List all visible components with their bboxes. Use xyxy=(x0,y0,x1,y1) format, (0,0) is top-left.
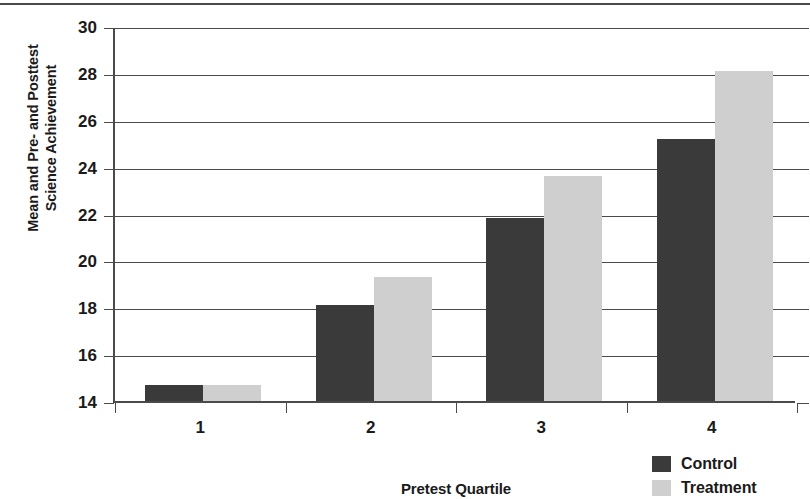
y-tick-mark-right-20 xyxy=(797,262,809,263)
bar-control-q2 xyxy=(316,305,374,401)
y-tick-mark-14 xyxy=(104,403,114,404)
y-tick-mark-right-18 xyxy=(797,309,809,310)
y-tick-label-24: 24 xyxy=(49,160,97,177)
y-tick-mark-20 xyxy=(104,262,114,263)
y-tick-mark-28 xyxy=(104,75,114,76)
bar-treatment-q3 xyxy=(544,176,602,401)
y-tick-mark-right-30 xyxy=(797,28,809,29)
x-tick-label-3: 3 xyxy=(501,418,581,438)
y-tick-label-28: 28 xyxy=(49,66,97,83)
legend-label-control: Control xyxy=(681,455,737,473)
y-tick-mark-30 xyxy=(104,28,114,29)
x-tick-mark-2 xyxy=(286,403,287,413)
x-tick-mark-4 xyxy=(627,403,628,413)
y-tick-label-16: 16 xyxy=(49,347,97,364)
figure-top-rule xyxy=(0,3,810,5)
y-tick-mark-24 xyxy=(104,169,114,170)
y-tick-mark-22 xyxy=(104,216,114,217)
y-tick-mark-right-26 xyxy=(797,122,809,123)
gridline-y-30 xyxy=(115,28,797,29)
x-tick-label-4: 4 xyxy=(672,418,752,438)
chart-legend: Control Treatment xyxy=(652,452,810,499)
legend-entry-treatment: Treatment xyxy=(652,476,810,499)
x-tick-label-2: 2 xyxy=(331,418,411,438)
bar-control-q1 xyxy=(145,385,203,401)
bar-control-q3 xyxy=(486,218,544,401)
y-tick-label-30: 30 xyxy=(49,19,97,36)
plot-area: Pretest Quartile 3028262422201816141234 xyxy=(113,28,795,403)
legend-swatch-treatment-icon xyxy=(652,480,671,496)
y-tick-mark-right-16 xyxy=(797,356,809,357)
x-tick-mark-1 xyxy=(115,403,116,413)
legend-entry-control: Control xyxy=(652,452,810,476)
y-tick-label-14: 14 xyxy=(49,394,97,411)
y-tick-mark-26 xyxy=(104,122,114,123)
legend-label-treatment: Treatment xyxy=(681,479,757,497)
x-tick-label-1: 1 xyxy=(160,418,240,438)
figure-bar-chart: Mean and Pre- and Posttest Science Achie… xyxy=(0,0,810,499)
y-tick-mark-18 xyxy=(104,309,114,310)
gridline-y-26 xyxy=(115,122,797,123)
bar-treatment-q1 xyxy=(203,385,261,401)
legend-swatch-control-icon xyxy=(652,456,671,472)
y-tick-label-18: 18 xyxy=(49,300,97,317)
y-tick-label-20: 20 xyxy=(49,253,97,270)
bar-treatment-q4 xyxy=(715,71,773,401)
y-axis-title-line-1: Mean and Pre- and Posttest xyxy=(24,18,42,258)
x-tick-mark-end xyxy=(797,403,798,413)
y-tick-label-22: 22 xyxy=(49,207,97,224)
y-tick-mark-right-22 xyxy=(797,216,809,217)
y-tick-mark-right-14 xyxy=(797,403,809,404)
x-tick-mark-3 xyxy=(456,403,457,413)
bar-control-q4 xyxy=(657,139,715,402)
gridline-y-28 xyxy=(115,75,797,76)
y-tick-mark-right-28 xyxy=(797,75,809,76)
y-tick-label-26: 26 xyxy=(49,113,97,130)
y-tick-mark-16 xyxy=(104,356,114,357)
bar-treatment-q2 xyxy=(374,277,432,401)
y-tick-mark-right-24 xyxy=(797,169,809,170)
